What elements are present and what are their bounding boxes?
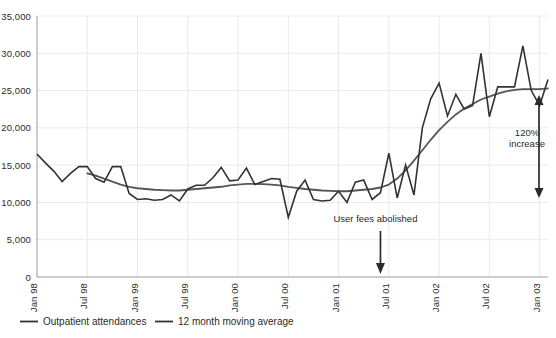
series-layer <box>37 46 548 218</box>
y-axis-tick-label: 10,000 <box>1 197 31 208</box>
annotation-increase-percent: 120% <box>515 127 540 138</box>
chart-canvas: 05,00010,00015,00020,00025,00030,00035,0… <box>0 0 556 338</box>
y-axis-tick-label: 25,000 <box>1 85 31 96</box>
annotation-user-fees-arrow-head <box>376 263 385 274</box>
annotation-increase-arrow-head-bottom <box>535 188 544 198</box>
outpatient-attendances-chart: 05,00010,00015,00020,00025,00030,00035,0… <box>0 0 556 338</box>
legend-label-outpatient-attendances: Outpatient attendances <box>43 316 146 327</box>
gridlines-group <box>37 16 548 277</box>
y-axis-tick-label: 0 <box>26 272 31 283</box>
y-axis-tick-label: 5,000 <box>7 234 31 245</box>
y-axis-tick-labels: 05,00010,00015,00020,00025,00030,00035,0… <box>1 11 31 283</box>
x-axis-tick-label: Jan 99 <box>129 283 140 312</box>
y-axis-tick-label: 20,000 <box>1 122 31 133</box>
y-axis-tick-label: 35,000 <box>1 11 31 22</box>
x-axis-tick-labels: Jan 98Jul 98Jan 99Jul 99Jan 00Jul 00Jan … <box>28 283 542 312</box>
x-axis-tick-label: Jan 02 <box>430 283 441 312</box>
series-line-moving-average <box>87 88 548 191</box>
x-axis-tick-label: Jul 98 <box>78 283 89 309</box>
annotation-user-fees-label: User fees abolished <box>333 213 417 224</box>
x-axis-tick-label: Jul 00 <box>279 283 290 309</box>
y-axis-tick-label: 15,000 <box>1 160 31 171</box>
y-axis-tick-label: 30,000 <box>1 48 31 59</box>
annotation-user-fees-abolished: User fees abolished <box>333 213 417 274</box>
x-axis-tick-label: Jul 02 <box>480 283 491 309</box>
chart-legend: Outpatient attendances 12 month moving a… <box>20 316 294 327</box>
x-axis-tick-label: Jul 99 <box>179 283 190 309</box>
x-axis-tick-label: Jan 00 <box>229 283 240 312</box>
annotation-percent-increase: 120% increase <box>509 95 545 198</box>
legend-label-moving-average: 12 month moving average <box>178 316 294 327</box>
x-axis-tick-label: Jan 98 <box>28 283 39 312</box>
series-line-outpatient-attendances <box>37 46 548 218</box>
x-axis-tick-label: Jan 01 <box>330 283 341 312</box>
x-axis-tick-label: Jan 03 <box>531 283 542 312</box>
axes-group <box>37 16 548 277</box>
x-axis-tick-label: Jul 01 <box>380 283 391 309</box>
